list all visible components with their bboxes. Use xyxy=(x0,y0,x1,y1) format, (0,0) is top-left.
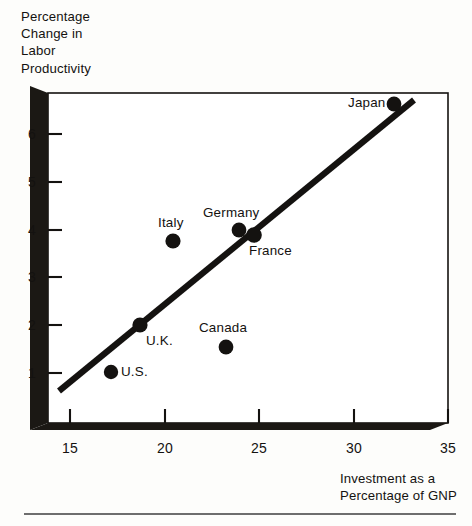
y-axis-title: Percentage Change in Labor Productivity xyxy=(21,8,91,77)
y-tick-label-1: 1 xyxy=(6,365,36,381)
data-point-canada[interactable] xyxy=(219,340,234,355)
x-tick-label-25: 25 xyxy=(239,440,279,456)
y-tick-label-3: 3 xyxy=(6,269,36,285)
y-tick-label-5: 5 xyxy=(6,174,36,190)
x-tick-label-35: 35 xyxy=(428,440,468,456)
y-tick-label-6: 6 xyxy=(6,126,36,142)
point-label-italy: Italy xyxy=(158,215,184,230)
data-point-france[interactable] xyxy=(246,227,262,243)
y-tick-label-4: 4 xyxy=(6,222,36,238)
data-point-uk[interactable] xyxy=(132,317,147,332)
data-point-us[interactable] xyxy=(104,365,118,379)
x-axis-title: Investment as a Percentage of GNP xyxy=(340,470,457,504)
data-point-germany[interactable] xyxy=(232,223,247,238)
x-tick-label-20: 20 xyxy=(145,440,185,456)
point-label-germany: Germany xyxy=(203,205,259,220)
point-label-japan: Japan xyxy=(348,95,385,110)
x-tick-label-30: 30 xyxy=(334,440,374,456)
point-label-us: U.S. xyxy=(121,364,148,379)
data-point-italy[interactable] xyxy=(165,233,180,248)
x-tick-label-15: 15 xyxy=(50,440,90,456)
y-tick-label-2: 2 xyxy=(6,317,36,333)
point-label-france: France xyxy=(249,243,292,258)
footer-divider xyxy=(24,513,456,515)
point-label-uk: U.K. xyxy=(146,333,173,348)
data-point-japan[interactable] xyxy=(387,97,402,112)
x-axis-slab xyxy=(30,423,448,430)
point-label-canada: Canada xyxy=(199,320,247,335)
